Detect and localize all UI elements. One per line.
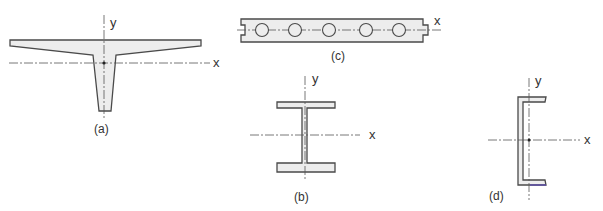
void-5 (393, 24, 406, 37)
void-2 (289, 24, 302, 37)
figure-label-d: (d) (489, 189, 504, 203)
y-axis-label-b: y (312, 71, 319, 86)
void-4 (360, 24, 373, 37)
y-axis-label-d: y (535, 73, 542, 88)
cross-sections-diagram: y x (a) x (c) y x (b) y x (d) (0, 0, 603, 211)
figure-b-i-beam: y x (b) (250, 71, 376, 204)
void-3 (323, 24, 336, 37)
figure-label-b: (b) (294, 190, 309, 204)
i-beam-section (277, 102, 335, 172)
figure-d-channel: y x (d) (488, 73, 591, 203)
centroid-d (527, 138, 530, 141)
channel-section (518, 97, 546, 185)
y-axis-label-a: y (110, 15, 117, 30)
centroid-a (102, 61, 105, 64)
tee-beam-section (10, 40, 201, 111)
x-axis-label-c: x (434, 13, 441, 28)
x-axis-label-a: x (213, 55, 220, 70)
x-axis-label-d: x (584, 132, 591, 147)
figure-a-tee-beam: y x (a) (9, 15, 220, 136)
figure-c-hollow-core-plank: x (c) (237, 13, 442, 63)
figure-label-c: (c) (331, 49, 345, 63)
figure-label-a: (a) (94, 122, 109, 136)
x-axis-label-b: x (369, 127, 376, 142)
void-1 (256, 24, 269, 37)
